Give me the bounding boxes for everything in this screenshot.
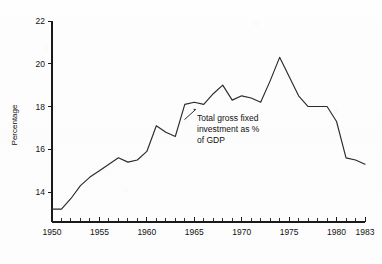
y-axis-title: Percentage bbox=[10, 104, 19, 145]
x-tick-label: 1970 bbox=[232, 227, 251, 237]
x-tick-label: 1975 bbox=[280, 227, 299, 237]
annotation-label: Total gross fixed investment as % of GDP bbox=[197, 113, 260, 145]
y-tick-label: 16 bbox=[36, 144, 46, 154]
y-axis-ticks: 1416182022 bbox=[36, 16, 52, 197]
x-tick-label: 1960 bbox=[137, 227, 156, 237]
line-chart: 1416182022 19501955196019651970197519801… bbox=[0, 0, 382, 264]
annotation-leader-line bbox=[185, 109, 196, 119]
y-tick-label: 20 bbox=[36, 59, 46, 69]
y-tick-label: 18 bbox=[36, 102, 46, 112]
x-tick-label: 1983 bbox=[356, 227, 375, 237]
y-tick-label: 22 bbox=[36, 16, 46, 26]
x-tick-label: 1980 bbox=[327, 227, 346, 237]
annotation-line-1: Total gross fixed bbox=[197, 113, 259, 123]
x-axis-ticks: 19501955196019651970197519801983 bbox=[43, 217, 375, 237]
chart-figure: 1416182022 19501955196019651970197519801… bbox=[0, 0, 382, 264]
x-tick-label: 1955 bbox=[90, 227, 109, 237]
x-tick-label: 1950 bbox=[43, 227, 62, 237]
annotation-line-3: of GDP bbox=[197, 135, 225, 145]
y-tick-label: 14 bbox=[36, 187, 46, 197]
annotation-line-2: investment as % bbox=[197, 124, 260, 134]
x-tick-label: 1965 bbox=[185, 227, 204, 237]
